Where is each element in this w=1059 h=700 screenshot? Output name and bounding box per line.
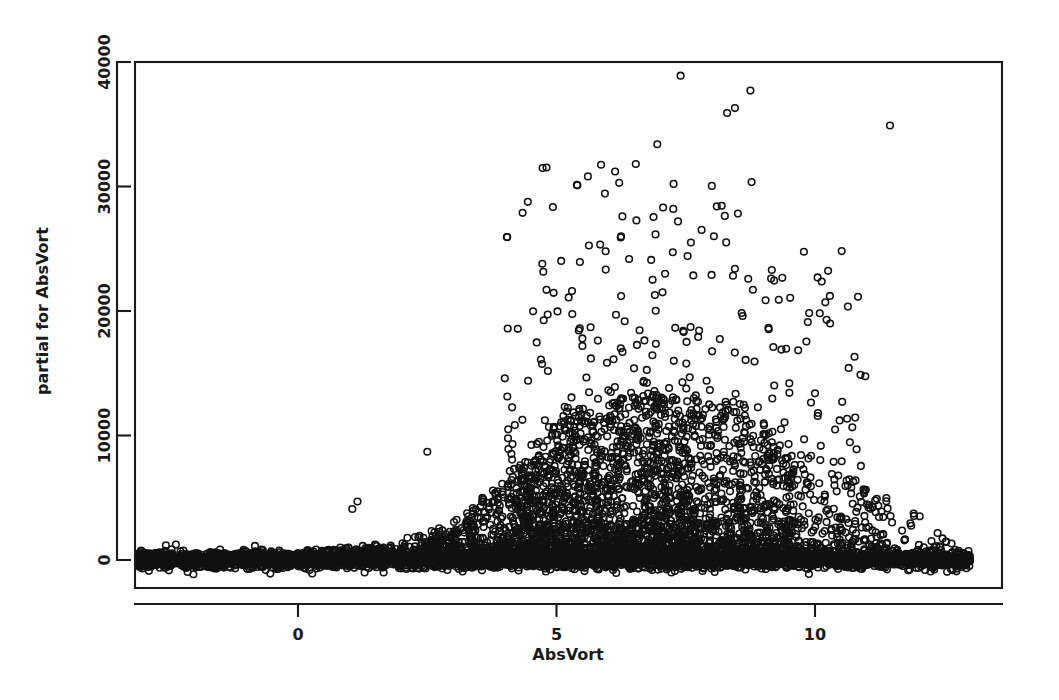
data-point bbox=[602, 266, 609, 273]
data-point bbox=[659, 289, 666, 296]
data-point bbox=[604, 433, 611, 440]
data-point bbox=[730, 398, 737, 405]
data-point bbox=[585, 173, 592, 180]
data-point bbox=[755, 404, 762, 411]
data-point bbox=[838, 248, 845, 255]
data-point bbox=[748, 179, 755, 186]
data-point bbox=[525, 199, 532, 206]
data-point bbox=[652, 292, 659, 299]
data-point bbox=[652, 231, 659, 238]
plot-canvas: 0510 AbsVort 010000200003000040000 parti… bbox=[0, 0, 1059, 700]
data-point bbox=[711, 233, 718, 240]
data-point bbox=[604, 359, 611, 366]
data-point bbox=[724, 110, 731, 117]
data-point bbox=[832, 426, 839, 433]
data-point bbox=[799, 503, 806, 510]
data-point bbox=[641, 337, 648, 344]
x-axis-ticks bbox=[298, 604, 815, 617]
data-point bbox=[677, 72, 684, 79]
data-point bbox=[822, 299, 829, 306]
data-point bbox=[852, 414, 859, 421]
data-point bbox=[543, 287, 550, 294]
data-point bbox=[587, 324, 594, 331]
data-point bbox=[795, 347, 802, 354]
data-point bbox=[825, 268, 832, 275]
data-point bbox=[633, 217, 640, 224]
data-point bbox=[504, 393, 511, 400]
data-point bbox=[732, 349, 739, 356]
data-point bbox=[349, 506, 356, 513]
data-point bbox=[855, 294, 862, 301]
data-point bbox=[597, 241, 604, 248]
data-point bbox=[631, 365, 638, 372]
data-point bbox=[785, 441, 792, 448]
data-point bbox=[808, 399, 815, 406]
y-axis: 010000200003000040000 partial for AbsVor… bbox=[33, 34, 131, 565]
data-point bbox=[690, 272, 697, 279]
data-point bbox=[662, 270, 669, 277]
data-point bbox=[568, 394, 575, 401]
data-point bbox=[752, 453, 759, 460]
y-tick-label-10000: 10000 bbox=[95, 408, 114, 464]
data-point bbox=[726, 443, 733, 450]
data-point bbox=[687, 324, 694, 331]
data-point bbox=[550, 204, 557, 211]
data-point bbox=[586, 242, 593, 249]
data-point bbox=[806, 510, 813, 517]
data-point bbox=[845, 365, 852, 372]
data-point bbox=[586, 389, 593, 396]
data-point bbox=[727, 488, 734, 495]
data-point bbox=[354, 498, 361, 505]
data-point bbox=[539, 361, 546, 368]
data-point bbox=[709, 183, 716, 190]
data-point bbox=[675, 218, 682, 225]
y-tick-label-30000: 30000 bbox=[95, 159, 114, 215]
data-point bbox=[619, 213, 626, 220]
data-point bbox=[644, 367, 651, 374]
data-point bbox=[626, 256, 633, 263]
data-point bbox=[649, 277, 656, 284]
data-point bbox=[887, 122, 894, 129]
data-point bbox=[612, 384, 619, 391]
data-point bbox=[735, 210, 742, 217]
data-point bbox=[683, 385, 690, 392]
data-point bbox=[686, 374, 693, 381]
data-point bbox=[801, 436, 808, 443]
data-point bbox=[742, 357, 749, 364]
data-point bbox=[861, 513, 868, 520]
data-point bbox=[679, 379, 686, 386]
data-point bbox=[827, 293, 834, 300]
data-point bbox=[649, 352, 656, 359]
data-point bbox=[684, 253, 691, 260]
data-point bbox=[600, 463, 607, 470]
data-point bbox=[708, 272, 715, 279]
data-point bbox=[634, 508, 641, 515]
data-point bbox=[545, 368, 552, 375]
y-axis-tick-labels: 010000200003000040000 bbox=[95, 34, 114, 565]
data-point bbox=[696, 327, 703, 334]
data-point bbox=[602, 190, 609, 197]
data-point bbox=[533, 339, 540, 346]
y-axis-ticks bbox=[117, 62, 131, 560]
data-point bbox=[585, 467, 592, 474]
data-point bbox=[709, 348, 716, 355]
data-point bbox=[899, 527, 906, 534]
data-point bbox=[801, 248, 808, 255]
data-point bbox=[781, 419, 788, 426]
data-point bbox=[648, 257, 655, 264]
data-point bbox=[550, 290, 557, 297]
scatter-plot-figure: 0510 AbsVort 010000200003000040000 parti… bbox=[0, 0, 1059, 700]
data-point bbox=[610, 356, 617, 363]
data-point bbox=[830, 459, 837, 466]
data-point bbox=[853, 446, 860, 453]
data-point bbox=[845, 303, 852, 310]
data-point bbox=[530, 308, 537, 315]
data-point bbox=[839, 399, 846, 406]
data-point bbox=[774, 466, 781, 473]
data-point bbox=[805, 319, 812, 326]
data-point bbox=[672, 325, 679, 332]
data-point bbox=[847, 439, 854, 446]
data-point bbox=[424, 448, 431, 455]
data-point bbox=[778, 426, 785, 433]
data-point bbox=[519, 210, 526, 217]
